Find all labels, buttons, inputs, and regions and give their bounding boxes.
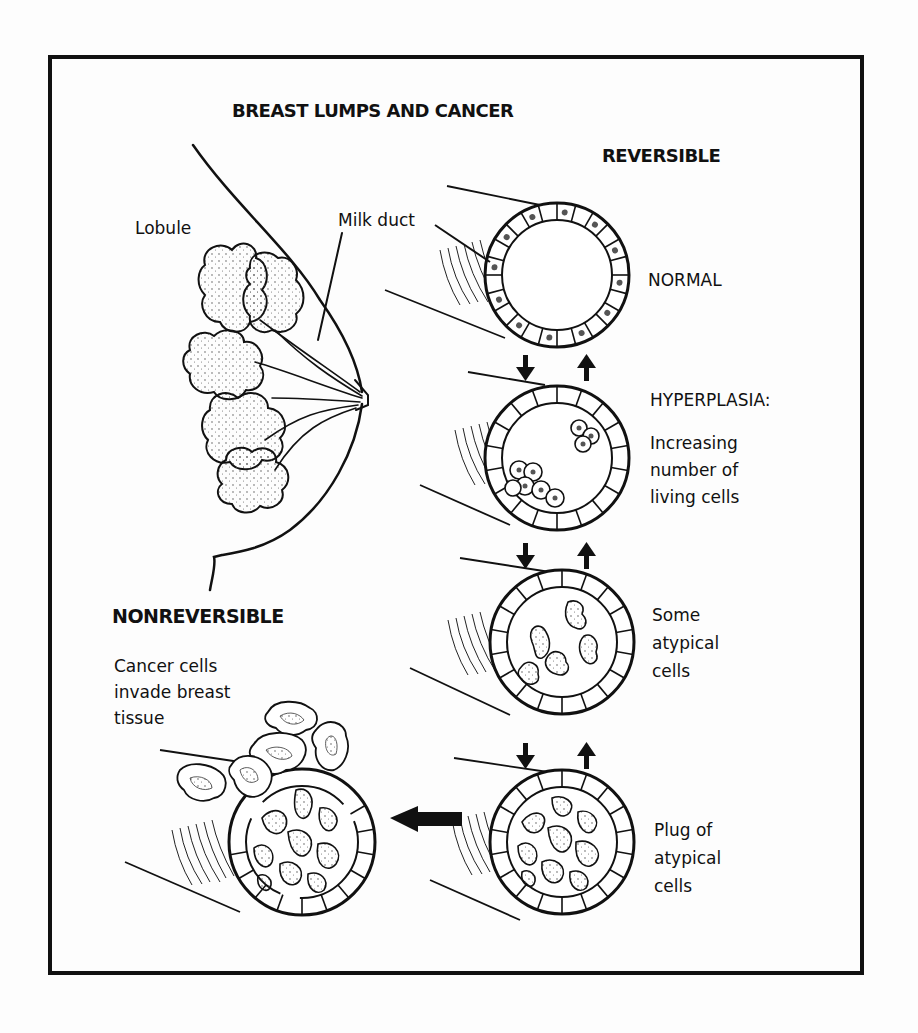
lobule-clusters	[183, 244, 303, 513]
arrow-down-icon	[516, 743, 535, 769]
arrow-up-icon	[577, 742, 596, 769]
milk-duct-pointer	[435, 225, 490, 262]
duct-atypical	[490, 570, 634, 714]
arrow-down-icon	[516, 355, 535, 381]
arrow-left-icon	[390, 806, 462, 832]
duct-hyperplasia	[485, 386, 629, 530]
arrow-down-icon	[516, 543, 535, 569]
arrow-up-icon	[577, 354, 596, 381]
arrow-up-icon	[577, 542, 596, 569]
duct-normal	[485, 203, 629, 347]
duct-plug	[490, 770, 634, 914]
diagram-artwork	[0, 0, 918, 1033]
